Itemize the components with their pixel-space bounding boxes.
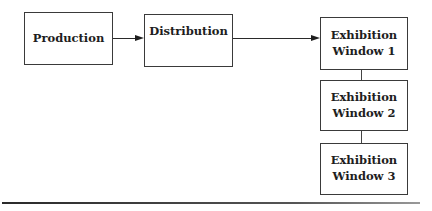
node-window3-line1: Exhibition bbox=[331, 153, 397, 169]
node-window2-line1: Exhibition bbox=[331, 90, 397, 106]
edge-window2-window3 bbox=[361, 131, 362, 143]
arrowhead-icon bbox=[311, 35, 320, 41]
node-window1-line2: Window 1 bbox=[332, 44, 395, 60]
edge-distribution-window1 bbox=[233, 38, 312, 39]
node-production-label: Production bbox=[33, 31, 105, 47]
node-distribution-label: Distribution bbox=[149, 24, 228, 40]
node-window2-line2: Window 2 bbox=[332, 106, 395, 122]
node-exhibition-window-3: Exhibition Window 3 bbox=[320, 143, 408, 195]
node-distribution: Distribution bbox=[144, 14, 233, 67]
node-exhibition-window-1: Exhibition Window 1 bbox=[320, 17, 408, 70]
bottom-rule-divider bbox=[2, 202, 420, 204]
node-window1-line1: Exhibition bbox=[331, 28, 397, 44]
node-window3-line2: Window 3 bbox=[332, 169, 395, 185]
arrowhead-icon bbox=[135, 35, 144, 41]
node-exhibition-window-2: Exhibition Window 2 bbox=[320, 80, 408, 131]
edge-production-distribution bbox=[113, 38, 137, 39]
edge-window1-window2 bbox=[361, 70, 362, 80]
node-production: Production bbox=[24, 12, 113, 65]
